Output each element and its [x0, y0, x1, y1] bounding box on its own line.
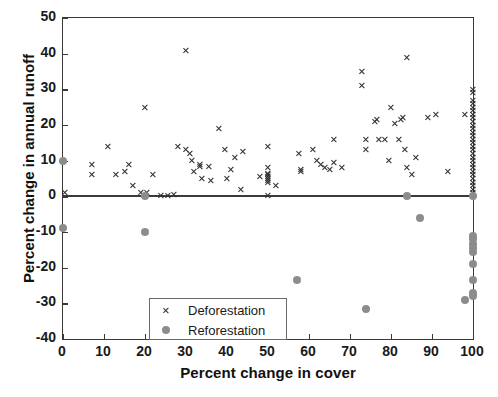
- data-point-deforestation: [470, 179, 477, 186]
- data-point-deforestation: [373, 116, 380, 123]
- x-tick-label: 70: [329, 343, 369, 359]
- data-point-deforestation: [232, 154, 239, 161]
- data-point-deforestation: [396, 136, 403, 143]
- x-axis-label: Percent change in cover: [62, 364, 474, 381]
- y-tick: [63, 54, 68, 55]
- data-point-deforestation: [400, 114, 407, 121]
- y-tick: [63, 125, 68, 126]
- chart-legend: Deforestation Reforestation: [149, 298, 287, 340]
- data-point-deforestation: [470, 136, 477, 143]
- x-tick-label: 50: [247, 343, 287, 359]
- x-tick-label: 10: [83, 343, 123, 359]
- data-point-deforestation: [470, 89, 477, 96]
- x-tick-label: 0: [42, 343, 82, 359]
- data-point-deforestation: [297, 166, 304, 173]
- y-tick: [63, 89, 68, 90]
- x-tick-label: 40: [206, 343, 246, 359]
- data-point-deforestation: [191, 168, 198, 175]
- data-point-deforestation: [265, 179, 272, 186]
- y-tick: [63, 232, 68, 233]
- data-point-deforestation: [381, 136, 388, 143]
- data-point-deforestation: [265, 175, 272, 182]
- y-tick-label: 50: [12, 8, 56, 24]
- data-point-deforestation: [121, 168, 128, 175]
- x-tick-label: 60: [288, 343, 328, 359]
- data-point-deforestation: [338, 164, 345, 171]
- data-point-deforestation: [199, 175, 206, 182]
- data-point-deforestation: [470, 111, 477, 118]
- data-point-deforestation: [470, 182, 477, 189]
- data-point-reforestation: [469, 248, 477, 256]
- data-point-deforestation: [224, 175, 231, 182]
- data-point-deforestation: [470, 157, 477, 164]
- data-point-deforestation: [310, 146, 317, 153]
- data-point-deforestation: [318, 161, 325, 168]
- y-tick-label: -10: [12, 222, 56, 238]
- data-point-deforestation: [412, 154, 419, 161]
- y-tick-label: -20: [12, 258, 56, 274]
- data-point-deforestation: [183, 146, 190, 153]
- legend-item-reforestation: Reforestation: [150, 320, 286, 341]
- data-point-deforestation: [187, 150, 194, 157]
- data-point-deforestation: [402, 146, 409, 153]
- data-point-deforestation: [125, 161, 132, 168]
- data-point-deforestation: [129, 182, 136, 189]
- data-point-deforestation: [174, 143, 181, 150]
- data-point-deforestation: [207, 177, 214, 184]
- data-point-reforestation: [469, 289, 477, 297]
- data-point-deforestation: [404, 54, 411, 61]
- data-point-deforestation: [470, 132, 477, 139]
- data-point-deforestation: [388, 104, 395, 111]
- data-point-deforestation: [445, 168, 452, 175]
- data-point-deforestation: [408, 171, 415, 178]
- data-point-deforestation: [359, 68, 366, 75]
- data-point-deforestation: [142, 104, 149, 111]
- data-point-deforestation: [150, 171, 157, 178]
- legend-item-deforestation: Deforestation: [150, 300, 286, 321]
- data-point-deforestation: [88, 161, 95, 168]
- y-tick-label: -30: [12, 293, 56, 309]
- y-tick-label: 10: [12, 151, 56, 167]
- data-point-deforestation: [256, 173, 263, 180]
- data-point-deforestation: [398, 116, 405, 123]
- data-point-deforestation: [330, 136, 337, 143]
- data-point-deforestation: [265, 171, 272, 178]
- data-point-reforestation: [362, 305, 370, 313]
- legend-label-deforestation: Deforestation: [188, 303, 265, 318]
- x-tick: [145, 334, 146, 339]
- x-tick-label: 90: [411, 343, 451, 359]
- data-point-deforestation: [470, 168, 477, 175]
- data-point-deforestation: [470, 139, 477, 146]
- data-point-deforestation: [326, 166, 333, 173]
- data-point-deforestation: [228, 166, 235, 173]
- data-point-reforestation: [141, 228, 149, 236]
- data-point-deforestation: [330, 159, 337, 166]
- data-point-deforestation: [273, 182, 280, 189]
- data-point-reforestation: [293, 276, 301, 284]
- data-point-deforestation: [238, 186, 245, 193]
- data-point-deforestation: [88, 171, 95, 178]
- data-point-deforestation: [470, 86, 477, 93]
- data-point-deforestation: [470, 154, 477, 161]
- x-tick-label: 80: [370, 343, 410, 359]
- y-tick: [63, 303, 68, 304]
- data-point-deforestation: [470, 114, 477, 121]
- data-point-deforestation: [215, 125, 222, 132]
- data-point-deforestation: [197, 161, 204, 168]
- x-tick: [432, 334, 433, 339]
- scatter-chart-figure: Percent change in annual runoff Percent …: [0, 0, 498, 397]
- data-point-deforestation: [322, 164, 329, 171]
- y-tick: [63, 339, 68, 340]
- plot-area: Deforestation Reforestation: [62, 17, 474, 340]
- data-point-deforestation: [461, 111, 468, 118]
- data-point-deforestation: [470, 97, 477, 104]
- data-point-deforestation: [265, 164, 272, 171]
- x-tick-label: 30: [165, 343, 205, 359]
- data-point-deforestation: [470, 146, 477, 153]
- x-tick: [309, 334, 310, 339]
- x-tick: [350, 334, 351, 339]
- data-point-deforestation: [470, 186, 477, 193]
- data-point-deforestation: [113, 171, 120, 178]
- data-point-deforestation: [470, 129, 477, 136]
- data-point-deforestation: [183, 47, 190, 54]
